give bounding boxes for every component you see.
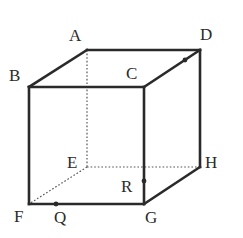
label-B: B	[9, 67, 20, 84]
label-Q: Q	[54, 209, 66, 226]
edge-CD	[144, 50, 200, 87]
label-R: R	[121, 178, 132, 195]
point-Q	[54, 202, 59, 207]
edge-EF	[29, 167, 87, 204]
label-A: A	[69, 27, 81, 44]
label-F: F	[14, 208, 23, 225]
cube-diagram: A D B C E H R F Q G	[0, 0, 243, 238]
visible-edges	[29, 50, 200, 204]
label-H: H	[205, 154, 217, 171]
point-P	[183, 58, 188, 63]
label-E: E	[67, 154, 77, 171]
hidden-edges	[29, 50, 200, 204]
edge-AB	[29, 50, 87, 87]
label-G: G	[145, 209, 157, 226]
label-C: C	[126, 65, 137, 82]
point-R	[142, 179, 147, 184]
edge-GH	[144, 167, 200, 204]
label-D: D	[200, 26, 212, 43]
